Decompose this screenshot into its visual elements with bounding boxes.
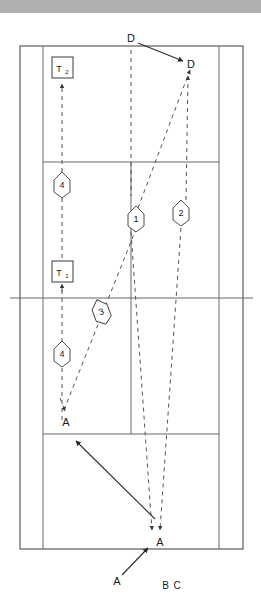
solid-arrow-group <box>76 43 183 575</box>
trajectory-d-vertical-lower <box>131 232 152 530</box>
box-t1[interactable]: T 1 <box>52 261 73 282</box>
label-a-lower: A <box>113 575 121 587</box>
marker-4-upper-label: 4 <box>59 180 64 190</box>
box-t1-label: T <box>56 268 62 278</box>
box-t1-frame <box>52 261 73 282</box>
box-t2-label: T <box>56 64 62 74</box>
marker-4-upper[interactable]: 4 <box>54 172 70 198</box>
marker-3[interactable]: 3 <box>89 297 113 327</box>
trajectory-marker2-down <box>160 228 181 530</box>
arrow-lower-a-to-mid-a <box>122 548 148 575</box>
court-outline-group <box>10 46 253 549</box>
box-t2-frame <box>52 57 73 78</box>
marker-4-lower-label: 4 <box>59 349 64 359</box>
figure-page: 1 2 3 4 4 T 2 <box>0 0 261 604</box>
trajectory-group <box>60 50 190 530</box>
marker-2-label: 2 <box>178 208 183 218</box>
label-a-upper: A <box>62 416 70 428</box>
marker-1-label: 1 <box>133 214 138 224</box>
marker-2[interactable]: 2 <box>173 200 189 226</box>
trajectory-into-d-target <box>186 76 188 200</box>
box-t2[interactable]: T 2 <box>52 57 73 78</box>
label-bottom-legend: B C <box>162 580 182 591</box>
marker-1[interactable]: 1 <box>128 206 144 232</box>
label-d-target: D <box>187 58 195 70</box>
arrow-bottom-a-to-upper-a <box>76 441 155 519</box>
label-d-origin: D <box>127 32 135 44</box>
label-a-mid: A <box>156 536 164 548</box>
marker-4-lower[interactable]: 4 <box>54 341 70 367</box>
court-diagram-figure: 1 2 3 4 4 T 2 <box>0 0 261 604</box>
trajectory-marker1-to-d <box>138 70 190 208</box>
